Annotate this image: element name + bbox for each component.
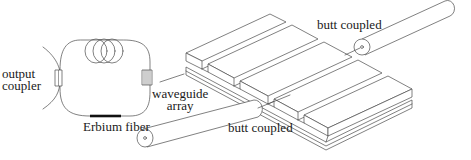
output-coupler-icon [55, 70, 62, 86]
diagram-canvas [0, 0, 471, 160]
grating-to-chip-link [160, 74, 184, 82]
erbium-fiber-label: Erbium fiber [83, 121, 150, 133]
waveguide-array-grating-icon [142, 70, 152, 85]
waveguide-array-label-line2: array [152, 100, 208, 112]
fiber-ring-loop [60, 40, 150, 116]
butt-coupled-bottom-label: butt coupled [228, 122, 293, 134]
waveguide-array-label: waveguide array [152, 88, 208, 112]
output-coupler-label-line2: coupler [2, 80, 41, 92]
butt-coupled-top-label: butt coupled [317, 19, 382, 31]
fiber-coil-icon [85, 39, 123, 63]
output-coupler-label: output coupler [2, 68, 41, 92]
